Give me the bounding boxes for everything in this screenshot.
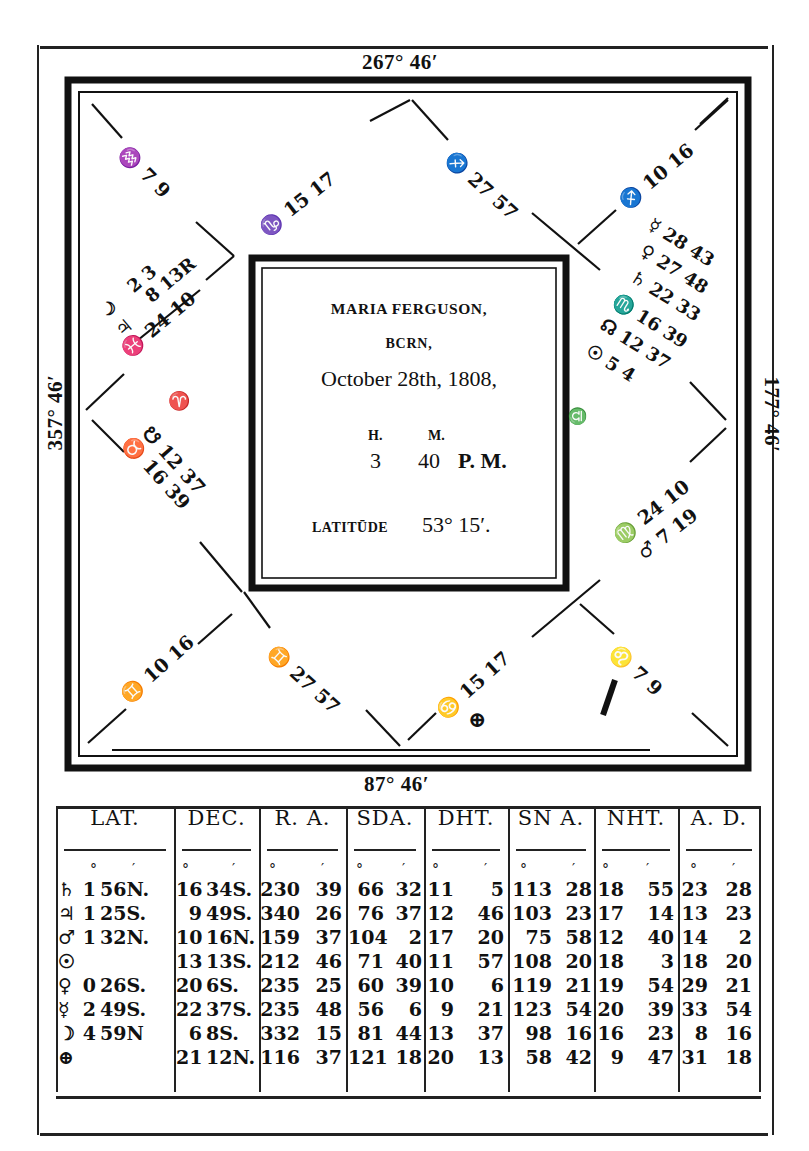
table-cell: 10 xyxy=(176,926,202,948)
table-cell: ′ xyxy=(646,861,649,877)
table-cell: 75 xyxy=(510,926,552,948)
table-cell: 104 xyxy=(348,926,384,948)
table-cell: 18 xyxy=(712,1046,752,1068)
table-row: ♃ 1 25S. 9 49S. 340 26 76 37 12 46 103 2… xyxy=(56,902,761,926)
table-cell: 25 xyxy=(306,974,342,996)
table-cell: 235 xyxy=(260,998,300,1020)
column-header: NHT. xyxy=(594,806,678,830)
table-cell: 20 xyxy=(176,974,202,996)
table-cell: 20 xyxy=(556,950,592,972)
birth-minutes: 40 xyxy=(418,448,440,474)
table-cell: 159 xyxy=(260,926,300,948)
table-cell: 37 xyxy=(390,902,422,924)
latitude-value: 53° 15′. xyxy=(422,512,491,538)
table-cell: 16 xyxy=(176,878,202,900)
table-cell: 6 xyxy=(176,1022,202,1044)
table-cell: 16 xyxy=(556,1022,592,1044)
table-cell: 46 xyxy=(460,902,504,924)
table-cell: ′ xyxy=(732,861,735,877)
table-cell: 55 xyxy=(630,878,674,900)
header-rule xyxy=(267,849,338,851)
header-rule xyxy=(64,849,166,851)
birth-date: October 28th, 1808, xyxy=(250,366,568,392)
table-cell: ° xyxy=(520,861,527,877)
hours-header: H. xyxy=(368,428,382,444)
table-row: ♂ 1 32N. 10 16N. 159 37 104 2 17 20 75 5… xyxy=(56,926,761,950)
table-cell: ° xyxy=(356,861,363,877)
table-cell: ° xyxy=(90,861,97,877)
table-cell: ° xyxy=(269,861,276,877)
table-cell: 0 xyxy=(78,974,96,996)
table-cell: 5 xyxy=(460,878,504,900)
table-cell: 40 xyxy=(390,950,422,972)
table-cell: 28 xyxy=(556,878,592,900)
aries-icon: ♈ xyxy=(168,392,190,410)
table-cell: 71 xyxy=(348,950,384,972)
table-cell: 48 xyxy=(306,998,342,1020)
header-rule xyxy=(432,849,500,851)
column-header: SDA. xyxy=(346,806,424,830)
table-cell: 37S. xyxy=(206,998,258,1020)
table-cell: 56N. xyxy=(100,878,170,900)
sun-icon: ☉ xyxy=(58,950,75,972)
table-cell: 6 xyxy=(460,974,504,996)
part-of-fortune-icon: ⊕ xyxy=(58,1046,74,1068)
table-cell: 18 xyxy=(390,1046,422,1068)
table-cell: 15 xyxy=(306,1022,342,1044)
table-cell: 37 xyxy=(460,1022,504,1044)
table-cell: 33 xyxy=(680,998,708,1020)
table-cell: 119 xyxy=(510,974,552,996)
header-rule xyxy=(182,849,251,851)
table-cell: 12N. xyxy=(206,1046,258,1068)
table-cell: ′ xyxy=(572,861,575,877)
table-cell: 98 xyxy=(510,1022,552,1044)
table-cell: 17 xyxy=(426,926,454,948)
header-rule xyxy=(602,849,670,851)
table-cell: 21 xyxy=(712,974,752,996)
table-cell: 123 xyxy=(510,998,552,1020)
table-cell: 13 xyxy=(176,950,202,972)
table-cell: 332 xyxy=(260,1022,300,1044)
table-cell: ′ xyxy=(132,861,135,877)
table-cell: 8S. xyxy=(206,1022,258,1044)
table-cell: 11 xyxy=(426,950,454,972)
table-cell: 42 xyxy=(556,1046,592,1068)
table-cell: 37 xyxy=(306,1046,342,1068)
table-cell: 31 xyxy=(680,1046,708,1068)
table-cell: 26S. xyxy=(100,974,170,996)
table-cell: 13 xyxy=(460,1046,504,1068)
table-cell: 9 xyxy=(426,998,454,1020)
table-cell: 60 xyxy=(348,974,384,996)
table-cell: 76 xyxy=(348,902,384,924)
table-cell: 18 xyxy=(596,950,624,972)
table-cell: 16N. xyxy=(206,926,258,948)
table-cell: 9 xyxy=(596,1046,624,1068)
column-header: SN A. xyxy=(508,806,594,830)
table-cell: 54 xyxy=(556,998,592,1020)
table-cell: 1 xyxy=(78,878,96,900)
table-cell: 66 xyxy=(348,878,384,900)
venus-icon: ♀ xyxy=(58,974,72,996)
table-row: ♄ 1 56N. 16 34S. 230 39 66 32 11 5 113 2… xyxy=(56,878,761,902)
table-cell: ′ xyxy=(484,861,487,877)
table-cell: 56 xyxy=(348,998,384,1020)
moon-icon: ☽ xyxy=(58,1022,75,1044)
table-cell: 57 xyxy=(460,950,504,972)
table-cell: 3 xyxy=(630,950,674,972)
column-header: DHT. xyxy=(424,806,508,830)
table-cell: 14 xyxy=(680,926,708,948)
birth-hour: 3 xyxy=(370,448,381,474)
table-cell: 81 xyxy=(348,1022,384,1044)
table-cell: 20 xyxy=(596,998,624,1020)
column-header: R. A. xyxy=(259,806,346,830)
table-cell: 49S. xyxy=(100,998,170,1020)
table-cell: 113 xyxy=(510,878,552,900)
libra-icon: ♎ xyxy=(570,406,586,426)
table-cell: ′ xyxy=(321,861,324,877)
table-cell: 2 xyxy=(712,926,752,948)
table-cell: 46 xyxy=(306,950,342,972)
table-cell: 47 xyxy=(630,1046,674,1068)
table-cell: 26 xyxy=(306,902,342,924)
table-cell: 1 xyxy=(78,902,96,924)
table-row: ☽ 4 59N 6 8S. 332 15 81 44 13 37 98 16 1… xyxy=(56,1022,761,1046)
